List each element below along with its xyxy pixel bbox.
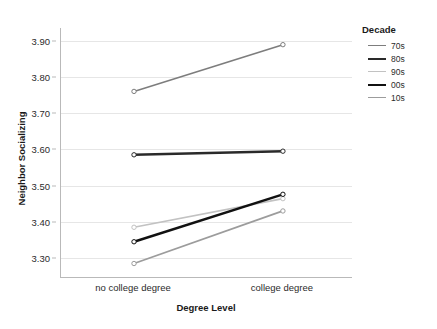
legend-line-swatch [368, 84, 386, 86]
data-point-marker [281, 149, 285, 153]
data-point-marker [132, 153, 136, 157]
y-tick-mark [52, 185, 56, 186]
data-point-marker [132, 225, 136, 229]
data-point-marker [281, 209, 285, 213]
data-point-marker [281, 42, 285, 46]
x-tick-label: no college degree [95, 282, 171, 293]
legend-item-10s[interactable]: 10s [362, 92, 436, 103]
series-layer [61, 28, 353, 278]
legend-line-swatch [368, 45, 386, 46]
data-point-marker [132, 240, 136, 244]
legend-item-label: 70s [391, 41, 405, 51]
chart-title [110, 0, 330, 1]
legend-item-00s[interactable]: 00s [362, 79, 436, 90]
y-tick-mark [52, 40, 56, 41]
y-axis-ticks: 3.303.403.503.603.703.803.90 [0, 28, 56, 278]
legend-item-70s[interactable]: 70s [362, 40, 436, 51]
legend-item-label: 90s [391, 67, 405, 77]
legend-items: 70s80s90s00s10s [362, 40, 436, 103]
y-tick-mark [52, 149, 56, 150]
series-80s [132, 149, 285, 157]
plot-area [60, 28, 352, 278]
legend: Decade 70s80s90s00s10s [362, 24, 436, 105]
x-axis-title: Degree Level [60, 302, 352, 313]
y-tick-label: 3.70 [32, 108, 51, 119]
y-tick-label: 3.40 [32, 216, 51, 227]
series-line [134, 199, 283, 228]
series-line [134, 151, 283, 155]
legend-item-80s[interactable]: 80s [362, 53, 436, 64]
legend-item-label: 10s [391, 93, 405, 103]
x-axis-ticks: no college degreecollege degree [60, 280, 352, 296]
x-tick-label: college degree [251, 282, 313, 293]
series-line [134, 45, 283, 92]
y-tick-mark [52, 113, 56, 114]
y-tick-label: 3.50 [32, 180, 51, 191]
y-tick-label: 3.80 [32, 71, 51, 82]
series-70s [132, 42, 285, 93]
legend-item-label: 00s [391, 80, 405, 90]
legend-title: Decade [362, 24, 436, 35]
legend-line-swatch [368, 97, 386, 98]
legend-item-label: 80s [391, 54, 405, 64]
legend-line-swatch [368, 58, 386, 60]
data-point-marker [281, 196, 285, 200]
y-tick-mark [52, 221, 56, 222]
y-tick-label: 3.60 [32, 144, 51, 155]
data-point-marker [132, 89, 136, 93]
data-point-marker [132, 261, 136, 265]
legend-item-90s[interactable]: 90s [362, 66, 436, 77]
y-tick-mark [52, 76, 56, 77]
legend-line-swatch [368, 71, 386, 72]
y-tick-label: 3.90 [32, 35, 51, 46]
chart-figure: Neighbor Socializing 3.303.403.503.603.7… [0, 0, 437, 329]
y-tick-mark [52, 258, 56, 259]
y-tick-label: 3.30 [32, 253, 51, 264]
data-point-marker [281, 192, 285, 196]
